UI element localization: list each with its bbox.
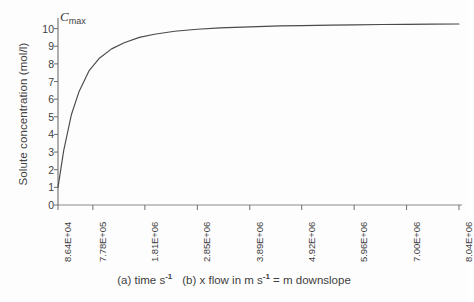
caption-part-b: (b) x flow in m s (182, 274, 263, 286)
caption-part-b-tail: = m downslope (273, 274, 351, 286)
cmax-symbol: C (60, 9, 69, 24)
y-tick-marks (54, 29, 58, 205)
cmax-annotation: Cmax (60, 9, 86, 26)
caption-b-exponent: -1 (263, 272, 270, 281)
figure-caption: (a) time s-1(b) x flow in m s-1 = m down… (0, 272, 468, 286)
caption-a-exponent: -1 (165, 272, 172, 281)
caption-part-a: (a) time s (117, 274, 165, 286)
cmax-subscript: max (69, 16, 86, 26)
x-tick-marks (58, 205, 459, 210)
data-curve-solute-concentration (58, 24, 459, 187)
